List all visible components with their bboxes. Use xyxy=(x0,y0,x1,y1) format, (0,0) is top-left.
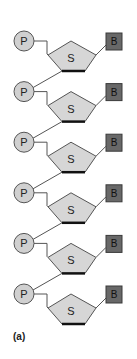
sugar-label: S xyxy=(67,254,74,266)
phosphate-label: P xyxy=(20,35,27,47)
phosphate-sugar-bond xyxy=(34,243,48,257)
nucleotide-unit: PSB xyxy=(14,233,122,290)
phosphate-sugar-bond xyxy=(34,41,48,55)
nucleotide-unit: PSB xyxy=(14,82,122,139)
base-label: B xyxy=(111,289,118,300)
phosphate-label: P xyxy=(20,237,27,249)
sugar-base-bond xyxy=(96,298,106,308)
base-label: B xyxy=(111,137,118,148)
figure-caption: (a) xyxy=(13,331,25,342)
backbone-bond xyxy=(33,223,62,240)
sugar-label: S xyxy=(67,103,74,115)
phosphate-sugar-bond xyxy=(34,294,48,308)
sugar-label: S xyxy=(67,305,74,317)
backbone-bond xyxy=(33,172,62,189)
nucleotide-chain-diagram: PSBPSBPSBPSBPSBPSB xyxy=(0,0,137,359)
nucleotide-unit: PSB xyxy=(14,284,122,324)
phosphate-label: P xyxy=(20,288,27,300)
base-label: B xyxy=(111,36,118,47)
sugar-label: S xyxy=(67,52,74,64)
sugar-label: S xyxy=(67,204,74,216)
sugar-base-bond xyxy=(96,146,106,156)
sugar-base-bond xyxy=(96,96,106,106)
base-label: B xyxy=(111,238,118,249)
sugar-base-bond xyxy=(96,197,106,207)
nucleotide-unit: PSB xyxy=(14,183,122,240)
sugar-label: S xyxy=(67,153,74,165)
backbone-bond xyxy=(33,273,62,290)
phosphate-sugar-bond xyxy=(34,142,48,156)
sugar-base-bond xyxy=(96,247,106,257)
phosphate-label: P xyxy=(20,136,27,148)
phosphate-label: P xyxy=(20,86,27,98)
phosphate-label: P xyxy=(20,187,27,199)
backbone-bond xyxy=(33,71,62,88)
base-label: B xyxy=(111,188,118,199)
nucleotide-unit: PSB xyxy=(14,132,122,189)
phosphate-sugar-bond xyxy=(34,92,48,106)
sugar-base-bond xyxy=(96,45,106,55)
base-label: B xyxy=(111,87,118,98)
phosphate-sugar-bond xyxy=(34,193,48,207)
nucleotide-unit: PSB xyxy=(14,31,122,88)
backbone-bond xyxy=(33,122,62,139)
